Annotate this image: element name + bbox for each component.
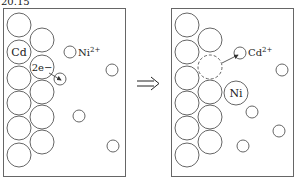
ni-atom-label: Ni <box>229 87 243 100</box>
cd-vacancy <box>198 55 222 79</box>
figure-label: 20.15 <box>1 0 30 7</box>
right-panel: Cd2+ Ni <box>172 9 294 177</box>
solution-ion <box>73 110 85 122</box>
electron-label: 2e− <box>32 62 53 73</box>
solution-ion <box>276 64 288 76</box>
electrochemistry-diagram: 20.15 Cd 2e− Ni2+ <box>0 0 299 181</box>
solution-ion <box>237 140 249 152</box>
left-panel-border <box>4 9 126 177</box>
ni-ion-label: Ni2+ <box>78 46 100 58</box>
dissolution-arrow <box>222 55 238 63</box>
solution-ion <box>106 64 118 76</box>
cd-electrode-atoms <box>175 13 222 167</box>
cd-electrode-atoms <box>7 13 54 167</box>
solution-ion <box>273 125 285 137</box>
cd-atom-label: Cd <box>11 46 26 59</box>
ni-ion <box>64 46 76 58</box>
electron-transfer-arrow <box>49 73 61 80</box>
cd-ion <box>234 47 246 59</box>
solution-ion <box>246 106 258 118</box>
left-panel: Cd 2e− Ni2+ <box>4 9 126 177</box>
solution-ion <box>107 140 119 152</box>
cd-ion-label: Cd2+ <box>248 46 273 58</box>
reaction-arrow <box>137 77 159 90</box>
